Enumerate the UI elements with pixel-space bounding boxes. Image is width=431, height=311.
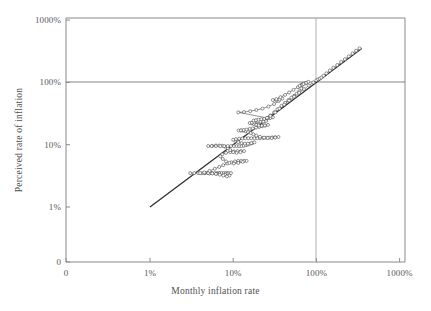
- x-tick-label: 0: [64, 268, 69, 278]
- x-tick-marks: [66, 258, 400, 262]
- y-tick-label: 100%: [40, 77, 61, 87]
- x-axis-title: Monthly inflation rate: [0, 286, 431, 296]
- y-axis-title: Perceived rate of inflation: [14, 88, 24, 192]
- y-tick-label: 10%: [44, 140, 61, 150]
- y-tick-label: 0: [56, 257, 61, 267]
- y-tick-label: 1000%: [35, 15, 61, 25]
- x-tick-label: 1%: [144, 268, 156, 278]
- chart-figure: 01%10%100%1000% 01%10%100%1000% Perceive…: [0, 0, 431, 311]
- y-tick-marks: [66, 20, 70, 262]
- x-tick-label: 1000%: [387, 268, 413, 278]
- x-tick-label: 100%: [306, 268, 327, 278]
- x-tick-label: 10%: [225, 268, 242, 278]
- plot-canvas: [0, 0, 431, 311]
- y-tick-label: 1%: [49, 202, 61, 212]
